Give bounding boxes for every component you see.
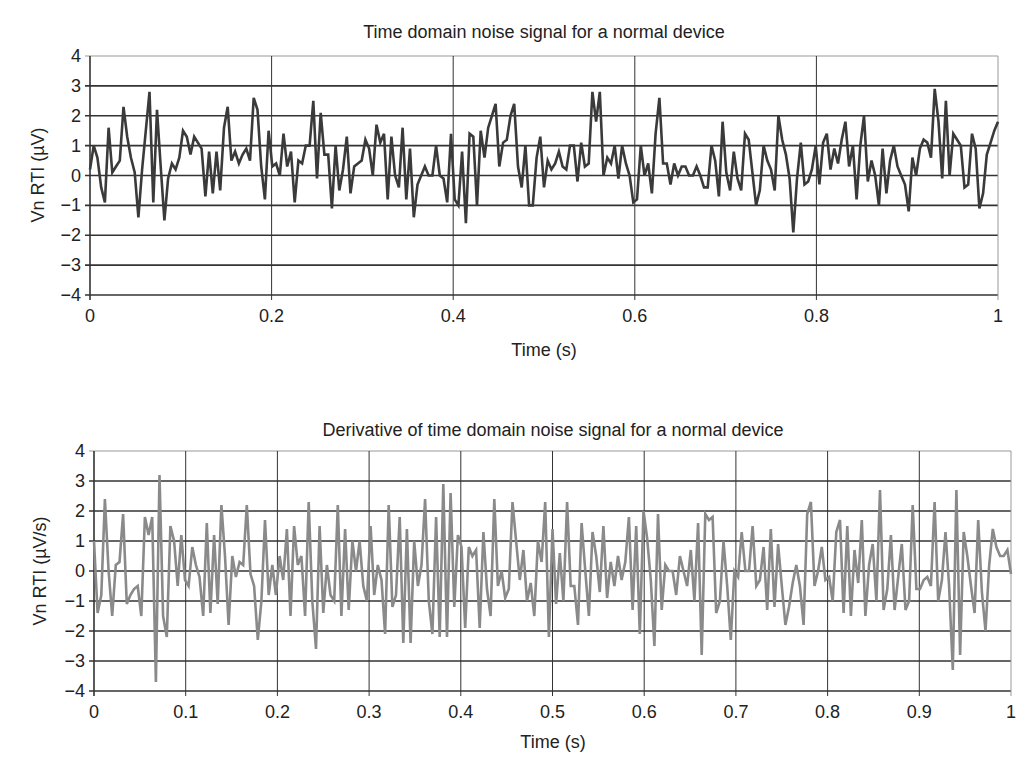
y-axis-label: Vn RTI (µV) <box>28 127 48 222</box>
x-tick-label: 0.7 <box>723 702 748 722</box>
y-tick-label: −2 <box>60 225 81 245</box>
y-tick-label: −2 <box>64 621 85 641</box>
x-axis-label: Time (s) <box>511 340 576 360</box>
y-tick-label: 0 <box>71 166 81 186</box>
x-tick-label: 0.6 <box>632 702 657 722</box>
y-tick-label: 2 <box>71 106 81 126</box>
x-tick-label: 0 <box>89 702 99 722</box>
y-tick-label: 3 <box>71 76 81 96</box>
chart-title: Derivative of time domain noise signal f… <box>322 420 783 440</box>
y-tick-label: 0 <box>75 561 85 581</box>
y-tick-label: 1 <box>71 136 81 156</box>
x-axis-label: Time (s) <box>520 732 585 752</box>
tick-labels: −4−3−2−10123400.20.40.60.81 <box>60 46 1003 326</box>
y-tick-label: −3 <box>64 651 85 671</box>
x-tick-label: 0.3 <box>357 702 382 722</box>
y-axis-label: Vn RTI (µV/s) <box>30 516 50 625</box>
x-tick-label: 0.1 <box>173 702 198 722</box>
y-tick-label: 4 <box>75 441 85 461</box>
time-domain-noise-chart: −4−3−2−10123400.20.40.60.81 Time domain … <box>0 0 1031 380</box>
x-tick-label: 0.6 <box>622 306 647 326</box>
derivative-noise-chart: −4−3−2−10123400.10.20.30.40.50.60.70.80.… <box>0 400 1031 778</box>
x-tick-label: 0.9 <box>907 702 932 722</box>
y-tick-label: −1 <box>64 591 85 611</box>
x-tick-label: 0.8 <box>804 306 829 326</box>
x-tick-label: 0.2 <box>265 702 290 722</box>
x-tick-label: 0.5 <box>540 702 565 722</box>
x-tick-label: 1 <box>1006 702 1016 722</box>
y-tick-label: −4 <box>60 285 81 305</box>
y-tick-label: 3 <box>75 471 85 491</box>
y-tick-label: 2 <box>75 501 85 521</box>
x-tick-label: 0.2 <box>259 306 284 326</box>
y-tick-label: −3 <box>60 255 81 275</box>
x-tick-label: 0.4 <box>448 702 473 722</box>
tick-labels: −4−3−2−10123400.10.20.30.40.50.60.70.80.… <box>64 441 1016 722</box>
x-tick-label: 0.8 <box>815 702 840 722</box>
y-tick-label: −1 <box>60 195 81 215</box>
noise-signal-line <box>90 89 998 232</box>
y-tick-label: 1 <box>75 531 85 551</box>
x-tick-label: 0.4 <box>441 306 466 326</box>
chart-title: Time domain noise signal for a normal de… <box>363 22 725 42</box>
x-tick-label: 1 <box>993 306 1003 326</box>
derivative-noise-plot: −4−3−2−10123400.10.20.30.40.50.60.70.80.… <box>0 400 1031 778</box>
y-tick-label: 4 <box>71 46 81 66</box>
time-domain-noise-plot: −4−3−2−10123400.20.40.60.81 Time domain … <box>0 0 1031 380</box>
y-tick-label: −4 <box>64 681 85 701</box>
x-tick-label: 0 <box>85 306 95 326</box>
